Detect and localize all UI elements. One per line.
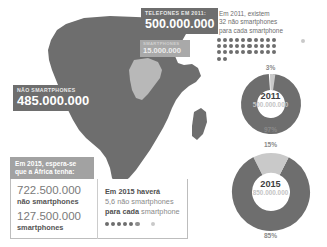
dot-dark	[217, 38, 221, 42]
donut-2015-total: 850.000.000	[231, 189, 311, 197]
dot-dark	[229, 50, 233, 54]
donut-chart-2015: 15% 2015 850.000.000 85%	[214, 141, 327, 241]
dot-light	[301, 39, 305, 43]
dot-dark	[111, 222, 115, 226]
dot-dark	[260, 38, 264, 42]
dot-dark	[247, 44, 251, 48]
banner-smartphones: SMARTPHONES 15.000.000	[140, 40, 190, 57]
donut-chart-2011: 3% 2011 500.000.000 97%	[214, 64, 327, 136]
panel-divider	[97, 179, 98, 239]
donut-2011-total: 500.000.000	[231, 101, 311, 109]
ratio-2011-line3: para cada smartphone	[219, 27, 324, 35]
panel-2015-forecast: Em 2015, espera-se que a África tenha: 7…	[10, 157, 188, 239]
ratio-2011-line1: Em 2011, existem	[219, 10, 324, 18]
ratio-2015-line3-bold: para cada	[105, 207, 141, 216]
dot-dark	[266, 44, 270, 48]
banner-telefones-caption: TELEFONES EM 2011:	[145, 10, 214, 17]
stat-smartphones-number: 127.500.000	[17, 210, 95, 223]
dot-dark	[260, 50, 264, 54]
dot-dark	[241, 38, 245, 42]
dot-dark	[272, 38, 276, 42]
donut-2011-bottom-pct: 97%	[214, 126, 327, 133]
dot-dark	[235, 38, 239, 42]
ratio-2011-text: Em 2011, existem 32 não smartphones para…	[219, 10, 324, 35]
dot-dark	[217, 44, 221, 48]
dot-row	[217, 50, 280, 56]
stat-nao-smartphones-label: não smartphones	[17, 197, 95, 207]
stat-smartphones-label: smartphones	[17, 223, 95, 233]
dot-dark	[223, 50, 227, 54]
dot-dark	[254, 50, 258, 54]
madagascar-shape	[192, 108, 207, 140]
donut-2011-year: 2011	[231, 91, 311, 101]
donut-2015-year: 2015	[231, 179, 311, 189]
donut-2011-center: 2011 500.000.000	[231, 91, 311, 109]
dot-dark	[235, 44, 239, 48]
dot-dark	[229, 44, 233, 48]
dot-dark	[260, 44, 264, 48]
panel-2015-ratio: Em 2015 haverá 5,6 não smartphones para …	[105, 187, 187, 230]
dot-dark	[123, 222, 127, 226]
donut-2015-top-pct: 15%	[214, 141, 327, 148]
dot-dark	[229, 38, 233, 42]
dot-dark	[254, 38, 258, 42]
dot-dark	[105, 222, 109, 226]
donut-2011-top-pct: 3%	[214, 64, 327, 71]
right-column: Em 2011, existem 32 não smartphones para…	[214, 0, 327, 247]
dot-dark	[129, 222, 133, 226]
ratio-2015-line1: Em 2015 haverá	[105, 187, 187, 197]
panel-2015-header: Em 2015, espera-se que a África tenha:	[10, 157, 94, 179]
banner-nao-smartphones-value: 485.000.000	[17, 94, 104, 108]
ratio-2015-line3: para cada smartphone	[105, 207, 187, 217]
dot-dark	[235, 50, 239, 54]
dot-dark	[217, 50, 221, 54]
dot-dark	[223, 57, 227, 61]
dot-dark	[254, 44, 258, 48]
dot-dark	[135, 222, 139, 226]
infographic-root: TELEFONES EM 2011: 500.000.000 SMARTPHON…	[0, 0, 327, 247]
ratio-2015-dot-row	[105, 222, 187, 230]
dot-dark	[241, 44, 245, 48]
dot-dark	[223, 44, 227, 48]
banner-smartphones-value: 15.000.000	[143, 46, 187, 55]
ratio-2015-line2: 5,6 não smartphones	[105, 197, 187, 207]
donut-2015-center: 2015 850.000.000	[231, 179, 311, 197]
banner-telefones-value: 500.000.000	[145, 17, 214, 31]
banner-telefones-2011: TELEFONES EM 2011: 500.000.000	[141, 8, 218, 34]
ratio-2011-dot-grid	[217, 38, 325, 64]
dot-dark	[217, 57, 221, 61]
panel-2015-header-line2: que a África tenha:	[15, 168, 89, 176]
banner-nao-smartphones: NÃO SMARTPHONES 485.000.000	[13, 85, 108, 111]
panel-2015-body: 722.500.000 não smartphones 127.500.000 …	[10, 179, 188, 239]
dot-dark	[117, 222, 121, 226]
dot-dark	[266, 38, 270, 42]
ratio-2011-dot-rows	[217, 38, 280, 63]
dot-light	[151, 222, 155, 226]
donut-2015-bottom-pct: 85%	[214, 232, 327, 239]
panel-2015-stats: 722.500.000 não smartphones 127.500.000 …	[17, 184, 95, 233]
dot-dark	[223, 38, 227, 42]
dot-dark	[272, 44, 276, 48]
ratio-2011-line2: 32 não smartphones	[219, 18, 324, 26]
ratio-2015-line3-rest: smartphone	[141, 207, 180, 216]
stat-nao-smartphones-number: 722.500.000	[17, 184, 95, 197]
dot-dark	[247, 50, 251, 54]
dot-dark	[241, 50, 245, 54]
dot-dark	[272, 50, 276, 54]
dot-dark	[247, 38, 251, 42]
dot-row	[217, 57, 280, 63]
ratio-2011-smartphone-dot	[301, 39, 307, 57]
dot-dark	[266, 50, 270, 54]
